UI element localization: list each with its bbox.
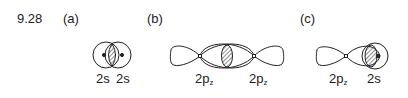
- nucleus-left: [199, 55, 202, 58]
- nucleus-left: [102, 53, 105, 56]
- p-orbital-right-back-lobe: [254, 46, 284, 66]
- nucleus-right: [253, 55, 256, 58]
- diagram-a-s-s-overlap: [93, 42, 131, 68]
- orbital-subscript: z: [343, 78, 347, 87]
- diagram-b-p-p-overlap: [170, 44, 283, 68]
- orbital-label-c1: 2pz: [329, 72, 347, 87]
- nucleus-right: [120, 53, 123, 56]
- orbital-subscript: z: [263, 78, 267, 87]
- orbital-label-a2: 2s: [116, 72, 130, 87]
- orbital-label-b1: 2pz: [195, 72, 213, 87]
- diagram-c-p-s-overlap: [316, 43, 388, 69]
- orbital-subscript: z: [209, 78, 213, 87]
- overlap-region: [365, 45, 377, 67]
- orbital-label-a1: 2s: [96, 72, 110, 87]
- orbital-label-text: 2p: [195, 71, 209, 86]
- nucleus-s: [376, 54, 380, 58]
- orbital-label-text: 2s: [116, 71, 130, 86]
- orbital-label-text: 2p: [329, 71, 343, 86]
- orbital-label-text: 2p: [249, 71, 263, 86]
- overlap-region: [222, 45, 233, 67]
- p-orbital-back-lobe: [316, 47, 346, 66]
- nucleus-p: [345, 55, 348, 58]
- orbital-label-text: 2s: [96, 71, 110, 86]
- orbital-label-c2: 2s: [367, 72, 381, 87]
- overlap-region: [109, 44, 116, 67]
- orbital-label-b2: 2pz: [249, 72, 267, 87]
- orbital-label-text: 2s: [367, 71, 381, 86]
- p-orbital-left-back-lobe: [170, 46, 200, 66]
